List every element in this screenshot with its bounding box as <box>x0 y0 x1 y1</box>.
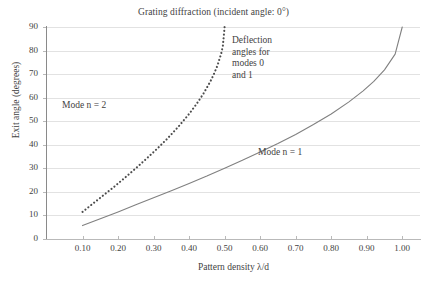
y-tick-label-0: 0 <box>8 233 38 243</box>
x-tick-label-0.50: 0.50 <box>205 243 245 253</box>
series-label-mode-n-2: Mode n = 2 <box>62 100 106 110</box>
y-tick-label-40: 40 <box>8 139 38 149</box>
deflection-annotation: Deflectionangles formodes 0and 1 <box>232 35 312 81</box>
series-line-mode-n-2 <box>83 27 225 212</box>
deflection-annotation-line-1: Deflection <box>232 35 312 47</box>
x-tick-label-0.80: 0.80 <box>311 243 351 253</box>
x-axis-line <box>46 239 421 240</box>
series-label-mode-n-1: Mode n = 1 <box>258 147 302 157</box>
y-tick-label-90: 90 <box>8 21 38 31</box>
y-tick-label-10: 10 <box>8 209 38 219</box>
y-tick-label-30: 30 <box>8 162 38 172</box>
x-tick-label-0.60: 0.60 <box>240 243 280 253</box>
y-tick-label-20: 20 <box>8 186 38 196</box>
x-tick-label-0.30: 0.30 <box>134 243 174 253</box>
x-tick-label-0.40: 0.40 <box>169 243 209 253</box>
y-tick-label-60: 60 <box>8 92 38 102</box>
chart-figure: Grating diffraction (incident angle: 0°)… <box>0 0 427 289</box>
deflection-annotation-line-4: and 1 <box>232 70 312 82</box>
x-tick-label-0.70: 0.70 <box>276 243 316 253</box>
y-tick-label-80: 80 <box>8 45 38 55</box>
x-tick-label-0.20: 0.20 <box>98 243 138 253</box>
deflection-annotation-line-2: angles for <box>232 47 312 59</box>
x-axis-label: Pattern density λ/d <box>47 262 420 272</box>
chart-title: Grating diffraction (incident angle: 0°) <box>0 7 427 17</box>
y-tick-label-50: 50 <box>8 115 38 125</box>
deflection-annotation-line-3: modes 0 <box>232 58 312 70</box>
x-tick-label-1.00: 1.00 <box>382 243 422 253</box>
y-tick-label-70: 70 <box>8 68 38 78</box>
x-tick-label-0.10: 0.10 <box>63 243 103 253</box>
x-tick-label-0.90: 0.90 <box>347 243 387 253</box>
